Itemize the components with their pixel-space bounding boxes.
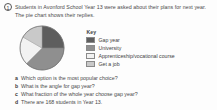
key-title: Key xyxy=(86,29,214,35)
part-text-c: What fraction of the whole year choose g… xyxy=(21,90,138,98)
key-item-get-a-job: Get a job xyxy=(86,61,214,68)
key-item-apprenticeship: Apprenticeship/vocational course xyxy=(86,53,214,60)
question-stem-line-2: The pie chart shows their replies. xyxy=(15,11,215,19)
key-item-gap-year: Gap year xyxy=(86,37,214,44)
key-label-get-a-job: Get a job xyxy=(99,61,120,67)
part-text-d: There are 168 students in Year 13. xyxy=(21,98,102,106)
question-part-a: a Which option is the most popular choic… xyxy=(15,74,215,82)
key-item-university: University xyxy=(86,45,214,52)
worksheet-page: 1 Students in Avonford School Year 13 we… xyxy=(0,0,217,110)
key-swatch-get-a-job xyxy=(86,61,95,67)
key-label-university: University xyxy=(99,45,122,51)
key-label-apprenticeship: Apprenticeship/vocational course xyxy=(99,53,175,59)
pie-chart xyxy=(17,24,67,72)
question-parts: a Which option is the most popular choic… xyxy=(15,74,215,106)
question-number: 1 xyxy=(4,3,12,11)
question-part-c: c What fraction of the whole year choose… xyxy=(15,90,215,98)
chart-key: Key Gap year University Apprenticeship/v… xyxy=(86,29,214,69)
question-stem-line-1: Students in Avonford School Year 13 were… xyxy=(15,3,215,11)
question-stem: Students in Avonford School Year 13 were… xyxy=(15,3,215,19)
part-text-a: Which option is the most popular choice? xyxy=(21,74,118,82)
key-swatch-apprenticeship xyxy=(86,53,95,59)
key-label-gap-year: Gap year xyxy=(99,37,120,43)
question-part-d: d There are 168 students in Year 13. xyxy=(15,98,215,106)
key-swatch-university xyxy=(86,45,95,51)
question-part-b: b What is the angle for gap year? xyxy=(15,82,215,90)
pie-chart-svg xyxy=(17,24,67,72)
key-swatch-gap-year xyxy=(86,37,95,43)
part-text-b: What is the angle for gap year? xyxy=(21,82,95,90)
